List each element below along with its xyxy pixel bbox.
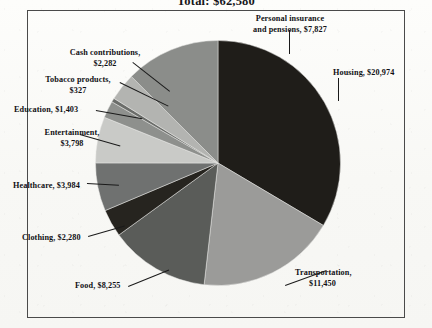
label-transportation: Transportation, $11,450 (295, 268, 415, 289)
label-clothing: Clothing, $2,280 (22, 233, 81, 244)
pie-chart-figure: Total: $62,580 Personal insurance and pe… (0, 0, 432, 328)
label-food: Food, $8,255 (75, 281, 121, 292)
label-housing: Housing, $20,974 (333, 68, 394, 79)
label-cash-contributions-line2: $2,282 (30, 59, 180, 70)
label-personal-insurance-line2: and pensions, $7,827 (210, 25, 370, 36)
leader-line-housing (338, 78, 339, 101)
label-healthcare: Healthcare, $3,984 (13, 181, 80, 192)
chart-title: Total: $62,580 (0, 0, 432, 9)
label-tobacco-products-line1: Tobacco products, (8, 75, 148, 86)
label-cash-contributions: Cash contributions, $2,282 (30, 48, 180, 69)
label-transportation-line1: Transportation, (295, 268, 415, 279)
label-cash-contributions-line1: Cash contributions, (30, 48, 180, 59)
label-entertainment-line1: Entertainment, (12, 128, 132, 139)
label-education: Education, $1,403 (14, 105, 78, 116)
label-personal-insurance-line1: Personal insurance (210, 14, 370, 25)
label-tobacco-products-line2: $327 (8, 86, 148, 97)
label-transportation-line2: $11,450 (295, 279, 415, 290)
label-entertainment: Entertainment, $3,798 (12, 128, 132, 149)
leader-line-personal-insurance (289, 30, 290, 54)
label-personal-insurance: Personal insurance and pensions, $7,827 (210, 14, 370, 35)
